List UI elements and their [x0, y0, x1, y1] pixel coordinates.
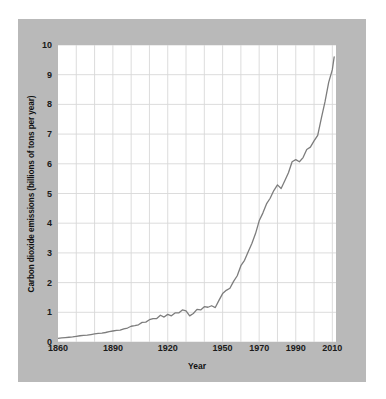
y-axis-tick: 8 — [47, 100, 52, 109]
y-axis-tick: 7 — [47, 130, 52, 139]
y-axis-tick: 1 — [47, 308, 52, 317]
x-axis-tick: 1950 — [213, 344, 233, 353]
x-axis-tick: 1970 — [249, 344, 269, 353]
y-axis-tick: 5 — [47, 189, 52, 198]
data-series-line — [58, 57, 334, 339]
plot-area — [58, 45, 336, 342]
y-axis-tick: 6 — [47, 159, 52, 168]
x-axis-tick: 1990 — [286, 344, 306, 353]
y-axis-title: Carbon dioxide emissions (billions of to… — [24, 45, 38, 342]
x-axis-tick: 1860 — [48, 344, 68, 353]
x-axis-tick: 2010 — [322, 344, 342, 353]
chart-figure: 012345678910 Carbon dioxide emissions (b… — [0, 0, 386, 399]
x-axis-tick-labels: 1860189019201950197019902010 — [58, 344, 336, 358]
y-axis-title-text: Carbon dioxide emissions (billions of to… — [27, 95, 36, 292]
gridlines-y — [58, 45, 336, 342]
x-axis-title: Year — [58, 361, 336, 371]
y-axis-tick: 10 — [42, 41, 52, 50]
y-axis-tick: 3 — [47, 248, 52, 257]
y-axis-tick: 4 — [47, 219, 52, 228]
y-axis-tick: 2 — [47, 278, 52, 287]
y-axis-tick: 9 — [47, 70, 52, 79]
x-axis-tick: 1890 — [103, 344, 123, 353]
plot-svg — [58, 45, 336, 342]
x-axis-tick: 1920 — [158, 344, 178, 353]
